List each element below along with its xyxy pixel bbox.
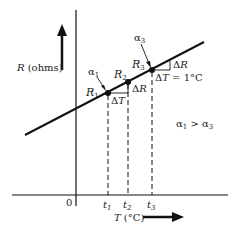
t-arrow-right-icon (172, 212, 184, 222)
delta-t-label: ΔT (111, 95, 126, 106)
delta-t-unit-label: ΔT = 1°C (155, 72, 203, 83)
delta-r-label-1: ΔR (132, 83, 147, 94)
r-arrow-up-icon (57, 24, 67, 36)
alpha1-label: α1 (88, 66, 99, 79)
t2-label: t2 (123, 199, 132, 212)
x-axis-label: T (°C) (114, 212, 144, 223)
delta-r-label-3: ΔR (173, 59, 188, 70)
r3-label: R3 (131, 58, 145, 72)
t1-label: t1 (103, 199, 112, 212)
t3-label: t3 (147, 199, 156, 212)
origin-label: 0 (66, 197, 72, 208)
r1-label: R1 (85, 86, 99, 100)
alpha3-arrowhead-icon (146, 61, 151, 68)
r2-label: R2 (113, 68, 127, 82)
rtd-diagram: R (ohms) T (°C) 0 t1 t2 t3 R1 R2 R3 α1 α… (0, 0, 239, 237)
alpha3-label: α3 (134, 32, 145, 45)
alpha1-arrowhead-icon (101, 85, 106, 91)
y-axis-label: R (ohms) (16, 62, 63, 73)
comparison-label: α1 > α3 (176, 118, 213, 131)
